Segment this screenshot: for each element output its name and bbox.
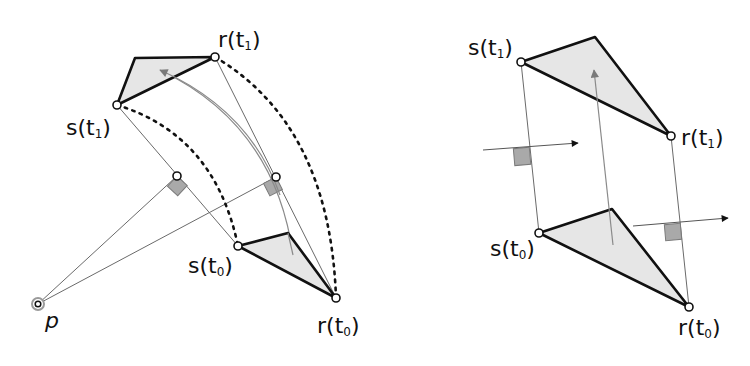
motion-arc-arrow [160, 70, 293, 255]
diagram-canvas: r(t1) s(t1) s(t0) r(t0) p s(t1) r(t1) s(… [0, 0, 750, 366]
right-angle-marker-right [664, 223, 681, 240]
figure: r(t1) s(t1) s(t0) r(t0) p s(t1) r(t1) s(… [0, 0, 750, 366]
right-angle-marker-left [513, 147, 530, 165]
label-s-t1: s(t1) [66, 115, 111, 141]
point-foot-right [272, 173, 280, 181]
triangle-t0 [539, 209, 689, 307]
triangle-t1 [117, 57, 215, 105]
label-r-t1: r(t1) [218, 27, 261, 53]
point-s-t0 [535, 229, 543, 237]
point-r-t1 [667, 132, 675, 140]
point-r-t0 [685, 303, 693, 311]
perpendicular-line-right [38, 177, 276, 304]
point-p [35, 301, 41, 307]
label-s-t0: s(t0) [188, 253, 233, 279]
point-foot-left [173, 172, 181, 180]
label-r-t1: r(t1) [681, 125, 724, 151]
label-s-t0: s(t0) [490, 236, 535, 262]
right-diagram: s(t1) r(t1) s(t0) r(t0) [468, 35, 728, 341]
triangle-t0 [238, 233, 336, 298]
point-s-t0 [234, 242, 242, 250]
point-s-t1 [517, 58, 525, 66]
perpendicular-line-left [38, 176, 177, 304]
point-r-t1 [211, 53, 219, 61]
label-r-t0: r(t0) [678, 315, 721, 341]
label-s-t1: s(t1) [468, 35, 513, 61]
point-r-t0 [332, 294, 340, 302]
left-diagram: r(t1) s(t1) s(t0) r(t0) p [32, 27, 360, 339]
label-p: p [44, 308, 59, 333]
label-r-t0: r(t0) [317, 313, 360, 339]
point-s-t1 [113, 101, 121, 109]
